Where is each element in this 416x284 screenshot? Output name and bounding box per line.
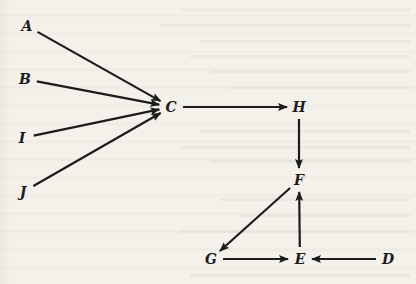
node-d: D	[382, 252, 394, 266]
edge-i-to-c	[34, 109, 160, 135]
edge-j-to-c	[33, 113, 160, 186]
edge-f-to-g	[220, 188, 290, 251]
node-i: I	[19, 131, 26, 145]
edge-b-to-c	[37, 81, 159, 104]
edge-layer	[33, 32, 376, 259]
node-e: E	[295, 252, 306, 266]
graph-canvas	[0, 0, 416, 284]
node-b: B	[19, 72, 31, 86]
node-j: J	[20, 185, 27, 199]
node-h: H	[292, 100, 305, 114]
edge-a-to-c	[38, 32, 161, 101]
node-g: G	[205, 252, 217, 266]
node-c: C	[165, 100, 176, 114]
node-f: F	[294, 173, 304, 187]
node-a: A	[22, 19, 33, 33]
edge-e-to-f	[299, 192, 300, 247]
